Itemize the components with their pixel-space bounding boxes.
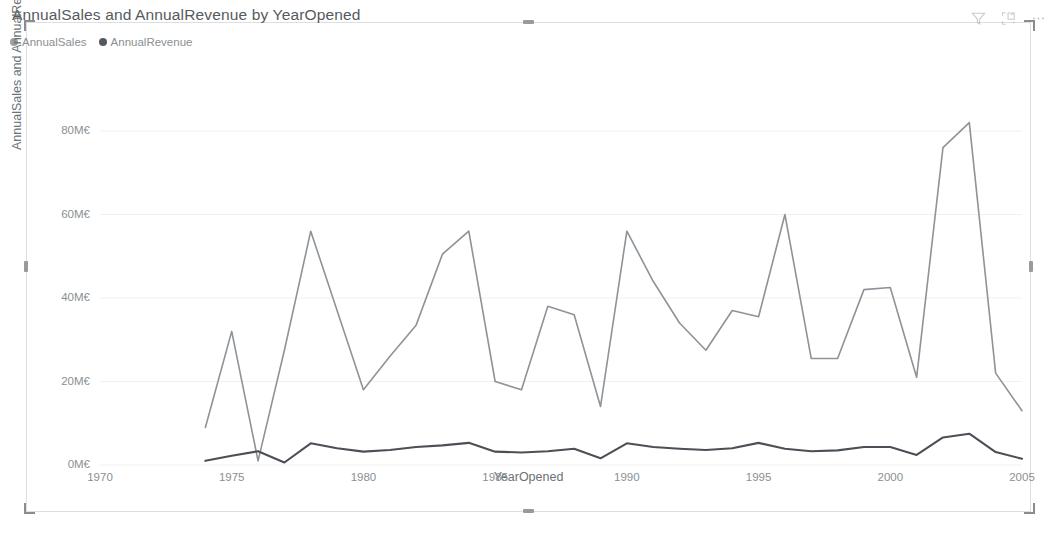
chart-plot-area[interactable]: [0, 0, 1057, 538]
y-tick-label: 20M€: [38, 375, 90, 387]
y-axis-title: AnnualSales and AnnualRevenue: [10, 0, 24, 150]
chart-gridlines: [100, 131, 1022, 465]
power-bi-visual-container: AnnualSales and AnnualRevenue by YearOpe…: [0, 0, 1057, 538]
series-line-annualrevenue[interactable]: [205, 434, 1022, 463]
resize-handle-top-center[interactable]: [523, 20, 534, 24]
x-tick-label: 1975: [202, 471, 262, 483]
x-tick-label: 1985: [465, 471, 525, 483]
resize-handle-top-right[interactable]: [1024, 20, 1035, 31]
resize-handle-bottom-left[interactable]: [24, 503, 35, 514]
filter-icon[interactable]: [970, 10, 987, 27]
series-line-annualsales[interactable]: [205, 123, 1022, 461]
focus-mode-icon[interactable]: [1000, 10, 1017, 27]
resize-handle-top-left[interactable]: [24, 20, 35, 31]
y-tick-label: 80M€: [38, 124, 90, 136]
resize-handle-bottom-right[interactable]: [1024, 503, 1035, 514]
x-tick-label: 1970: [70, 471, 130, 483]
x-tick-label: 1995: [729, 471, 789, 483]
visual-header-icons: [970, 10, 1047, 27]
x-tick-label: 2005: [992, 471, 1052, 483]
y-tick-label: 60M€: [38, 208, 90, 220]
resize-handle-middle-right[interactable]: [1029, 261, 1033, 272]
x-tick-label: 1980: [333, 471, 393, 483]
y-tick-label: 0M€: [38, 458, 90, 470]
resize-handle-middle-left[interactable]: [24, 261, 28, 272]
chart-series-lines: [205, 123, 1022, 463]
resize-handle-bottom-center[interactable]: [523, 509, 534, 513]
x-tick-label: 1990: [597, 471, 657, 483]
x-tick-label: 2000: [860, 471, 920, 483]
y-tick-label: 40M€: [38, 291, 90, 303]
